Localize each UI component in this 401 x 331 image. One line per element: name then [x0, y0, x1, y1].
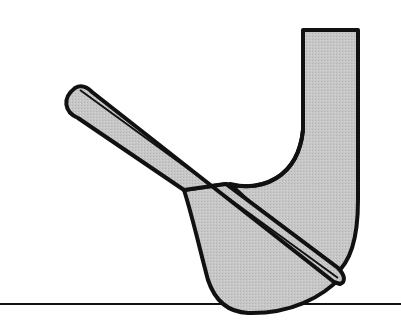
hosel-curve	[226, 30, 303, 186]
wedge-diagram	[0, 0, 401, 331]
diagram-canvas	[0, 0, 401, 331]
